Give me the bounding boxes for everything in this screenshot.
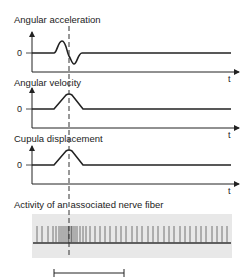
nerve-activity-trace [32, 214, 232, 258]
diagram-canvas [0, 0, 248, 280]
plot-cupula-displacement [26, 146, 239, 184]
plot-angular-acceleration [26, 32, 239, 72]
time-scale-bar [54, 269, 124, 277]
plot-angular-velocity [26, 88, 239, 128]
